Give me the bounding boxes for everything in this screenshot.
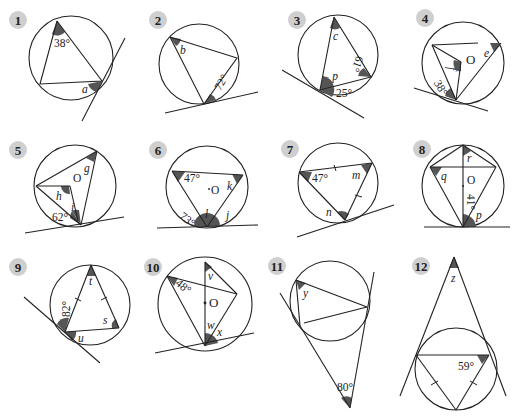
chord — [207, 175, 243, 227]
diagram-7: 7 47° m n — [281, 140, 394, 237]
angle-label: w — [207, 319, 215, 331]
angle-label: b — [180, 44, 186, 56]
angle-label: k — [227, 180, 233, 192]
angle-label: r — [467, 152, 472, 164]
angle-label: 47° — [184, 172, 201, 184]
centre-point — [462, 185, 464, 187]
angle-label: 80° — [337, 381, 354, 393]
angle-label: s — [103, 314, 108, 326]
tangent-line — [350, 272, 374, 408]
angle-label: q — [441, 170, 447, 183]
chord — [65, 265, 91, 332]
chord — [304, 307, 367, 323]
number-label: 3 — [294, 13, 301, 28]
circle-theorems-worksheet: 1 38° a 2 b 72° 3 c 61° d 25° — [0, 0, 521, 418]
diagram-10: 10 O v 48° w x — [144, 257, 254, 353]
circle — [29, 16, 113, 100]
diagram-5: 5 O g h i 62° — [9, 141, 124, 233]
chord — [432, 43, 478, 45]
angle-label: d — [332, 72, 338, 84]
angle-label: p — [475, 209, 482, 222]
number-label: 8 — [419, 142, 426, 157]
number-label: 6 — [155, 143, 162, 158]
number-label: 9 — [15, 260, 22, 275]
number-label: 10 — [147, 260, 160, 275]
centre-label: O — [466, 52, 475, 67]
angle-label: 82° — [60, 301, 72, 318]
angle-label: x — [216, 326, 223, 338]
angle-marker — [477, 355, 489, 364]
angle-label: t — [89, 275, 93, 287]
centre-label: O — [209, 295, 218, 310]
angle-label: l — [205, 208, 208, 220]
chord — [65, 328, 119, 332]
centre-point — [204, 302, 207, 305]
angle-label: e — [484, 47, 489, 59]
centre-label: O — [211, 184, 219, 196]
circle — [159, 24, 239, 104]
diagram-11: 11 y 80° — [268, 257, 374, 408]
angle-label: y — [302, 287, 309, 300]
diagram-4: 4 O e f 38° — [414, 9, 504, 111]
angle-label: v — [208, 270, 214, 282]
number-label: 12 — [415, 259, 428, 274]
angle-label: f — [445, 67, 458, 72]
tangent-line — [454, 257, 506, 396]
number-label: 11 — [271, 259, 283, 274]
diagram-12: 12 z 59° — [400, 257, 506, 410]
angle-label: c — [333, 30, 338, 42]
tangent-line — [297, 205, 394, 237]
diagram-6: 6 O 47° k l 73° j — [149, 141, 258, 229]
angle-label: i — [71, 201, 74, 213]
number-label: 4 — [422, 11, 429, 26]
chord — [456, 43, 501, 100]
angle-label: m — [352, 169, 360, 181]
angle-label: h — [56, 190, 62, 202]
inscribed-triangle — [40, 21, 102, 84]
centre-point — [208, 188, 210, 190]
number-label: 5 — [15, 143, 22, 158]
angle-label: n — [326, 206, 332, 218]
number-label: 7 — [287, 142, 294, 157]
tangent-line — [400, 257, 454, 396]
angle-label: 47° — [312, 172, 329, 184]
radius — [432, 45, 461, 62]
diagram-3: 3 c 61° d 25° — [282, 11, 378, 118]
number-label: 1 — [15, 13, 22, 28]
tangent-line — [82, 38, 125, 121]
angle-label: 62° — [52, 211, 69, 223]
angle-label: 25° — [336, 87, 353, 99]
angle-marker — [61, 186, 70, 194]
diagram-1: 1 38° a — [9, 11, 125, 121]
angle-label: z — [450, 272, 456, 284]
diagram-9: 9 t 82° s u — [9, 258, 130, 363]
angle-label: g — [84, 162, 90, 175]
angle-label: j — [224, 209, 229, 222]
angle-label: 59° — [458, 360, 475, 372]
angle-label: u — [78, 332, 84, 344]
centre-label: O — [73, 172, 81, 184]
diagram-8: 8 O r q 41° p — [413, 140, 510, 227]
angle-label: a — [82, 83, 88, 95]
centre-label: O — [467, 174, 475, 186]
number-label: 2 — [155, 13, 162, 28]
diagram-2: 2 b 72° — [149, 11, 258, 113]
angle-label: 38° — [54, 37, 71, 49]
